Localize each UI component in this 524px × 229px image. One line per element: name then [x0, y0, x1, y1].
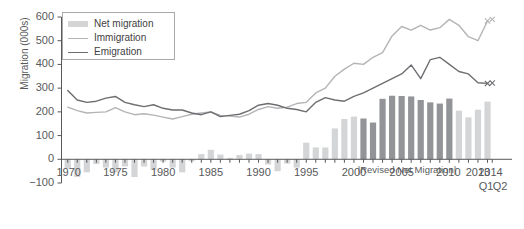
bar-net-migration [370, 123, 376, 160]
y-tick-label: 500 [20, 34, 54, 46]
bar-net-migration [246, 154, 252, 160]
bar-net-migration [322, 147, 328, 159]
y-tick-label: 200 [20, 105, 54, 117]
bar-net-migration [379, 99, 385, 159]
legend-line-emigration [68, 52, 88, 53]
bar-net-migration [255, 154, 261, 159]
bar-net-migration [313, 147, 319, 159]
projection-marker-x [490, 17, 495, 22]
bar-net-migration [236, 155, 242, 159]
x-tick-label: 1985 [191, 166, 231, 178]
bar-net-migration [341, 119, 347, 159]
revised-net-migration-annotation: |Revised Net Migration| [358, 164, 456, 175]
x-tick-label: 1975 [95, 166, 135, 178]
bar-net-migration [408, 96, 414, 159]
bar-net-migration [389, 96, 395, 160]
bar-net-migration [217, 155, 223, 160]
bar-net-migration [360, 119, 366, 160]
y-tick-label: 100 [20, 129, 54, 141]
x-tick-label: 1990 [239, 166, 279, 178]
legend-item-immigration: Immigration [68, 31, 169, 45]
y-tick-label: 300 [20, 81, 54, 93]
bar-net-migration [332, 128, 338, 159]
bar-net-migration [446, 99, 452, 160]
bar-net-migration [456, 111, 462, 160]
legend-line-immigration [68, 38, 88, 39]
bar-net-migration [484, 102, 490, 160]
bar-net-migration [208, 150, 214, 159]
x-tick-label: 2014 [471, 166, 511, 178]
bar-net-migration [303, 143, 309, 160]
legend-swatch-net-migration [68, 21, 88, 27]
y-tick-label: 400 [20, 57, 54, 69]
legend-label-net-migration: Net migration [94, 19, 153, 29]
bar-net-migration [437, 104, 443, 160]
x-tick-label: 1995 [286, 166, 326, 178]
bar-net-migration [475, 110, 481, 160]
projection-marker-x [490, 80, 495, 85]
x-tick-label: 1980 [143, 166, 183, 178]
projection-marker-x [485, 18, 490, 23]
x-tick-label: 1970 [49, 166, 89, 178]
bar-net-migration [198, 154, 204, 159]
migration-chart: Migration (000s) Net migration Immigrati… [0, 0, 524, 229]
bar-net-migration [427, 102, 433, 159]
y-tick-label: 0 [20, 152, 54, 164]
bar-net-migration [399, 96, 405, 159]
legend-item-net-migration: Net migration [68, 17, 169, 31]
bar-net-migration [418, 100, 424, 159]
chart-legend: Net migration Immigration Emigration [62, 12, 175, 60]
legend-label-emigration: Emigration [94, 47, 142, 57]
legend-label-immigration: Immigration [94, 33, 146, 43]
bar-net-migration [465, 117, 471, 159]
quarter-label: Q2 [490, 180, 510, 192]
legend-item-emigration: Emigration [68, 45, 169, 59]
bar-net-migration [351, 117, 357, 160]
y-tick-label: 600 [20, 10, 54, 22]
